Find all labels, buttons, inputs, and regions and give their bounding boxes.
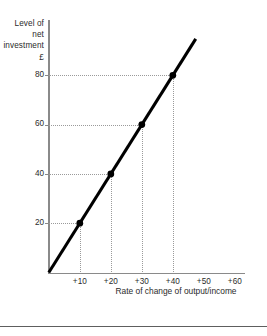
- bottom-divider: [0, 326, 267, 327]
- x-axis-caption: Rate of change of output/income: [96, 286, 256, 296]
- data-point-+10: [76, 220, 83, 227]
- data-point-+20: [107, 171, 114, 178]
- data-point-+30: [138, 121, 145, 128]
- data-point-+40: [169, 72, 176, 79]
- investment-accelerator-chart: Level of net investment £ 80604020 +10+2…: [0, 0, 267, 336]
